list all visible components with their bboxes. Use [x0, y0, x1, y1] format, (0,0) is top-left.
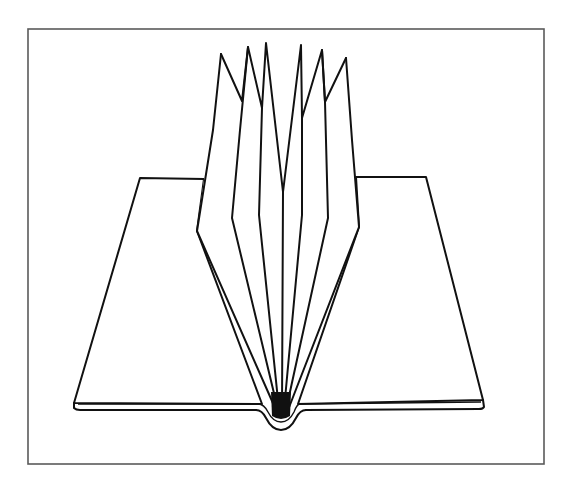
book-illustration — [0, 0, 575, 483]
